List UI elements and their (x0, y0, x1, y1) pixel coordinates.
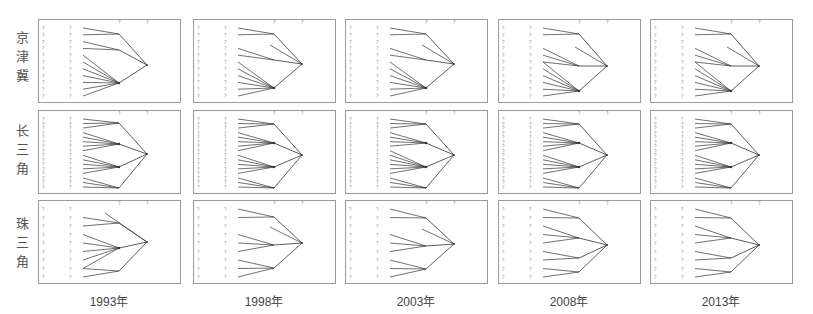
svg-text:?: ? (654, 184, 657, 190)
svg-text:?: ? (578, 110, 581, 116)
svg-text:?: ? (349, 249, 352, 255)
svg-text:?: ? (453, 200, 456, 206)
svg-text:?: ? (349, 25, 352, 31)
svg-text:?: ? (502, 223, 505, 229)
svg-text:?: ? (197, 257, 200, 263)
svg-text:?: ? (42, 223, 45, 229)
svg-text:?: ? (376, 86, 379, 92)
svg-text:?: ? (69, 274, 72, 280)
svg-text:?: ? (197, 79, 200, 85)
svg-text:?: ? (224, 25, 227, 31)
dendrogram-svg: ?????????????????????????????????? (39, 111, 182, 195)
svg-text:?: ? (502, 59, 505, 65)
svg-text:?: ? (376, 25, 379, 31)
svg-text:?: ? (349, 93, 352, 99)
svg-text:?: ? (349, 206, 352, 212)
svg-text:?: ? (197, 45, 200, 51)
svg-text:?: ? (42, 232, 45, 238)
svg-text:?: ? (42, 249, 45, 255)
svg-text:?: ? (654, 215, 657, 221)
svg-text:?: ? (376, 249, 379, 255)
svg-text:?: ? (197, 25, 200, 31)
svg-text:?: ? (42, 86, 45, 92)
dendrogram-svg: ???????????????????????? (346, 20, 489, 104)
svg-text:?: ? (502, 73, 505, 79)
svg-text:?: ? (529, 206, 532, 212)
row-label-char: 珠 (14, 214, 30, 233)
svg-text:?: ? (197, 59, 200, 65)
svg-text:?: ? (529, 32, 532, 38)
svg-text:?: ? (42, 257, 45, 263)
dendrogram-panel: ???????????????????? (193, 200, 336, 284)
svg-text:?: ? (681, 45, 684, 51)
svg-text:?: ? (529, 93, 532, 99)
dendrogram-svg: ???????????????????? (39, 201, 182, 285)
svg-text:?: ? (146, 200, 149, 206)
svg-text:?: ? (654, 93, 657, 99)
svg-text:?: ? (529, 215, 532, 221)
svg-text:?: ? (197, 266, 200, 272)
svg-text:?: ? (578, 200, 581, 206)
svg-text:?: ? (681, 240, 684, 246)
svg-text:?: ? (42, 73, 45, 79)
svg-text:?: ? (42, 215, 45, 221)
svg-text:?: ? (197, 184, 200, 190)
svg-text:?: ? (349, 274, 352, 280)
dendrogram-panel: ???????????????????? (498, 200, 641, 284)
svg-text:?: ? (376, 32, 379, 38)
row-label-char: 津 (14, 47, 30, 66)
svg-text:?: ? (502, 274, 505, 280)
svg-text:?: ? (529, 86, 532, 92)
svg-text:?: ? (69, 79, 72, 85)
svg-text:?: ? (529, 59, 532, 65)
svg-text:?: ? (349, 223, 352, 229)
svg-text:?: ? (681, 79, 684, 85)
row-label-char: 三 (14, 140, 30, 159)
svg-text:?: ? (681, 274, 684, 280)
svg-text:?: ? (224, 93, 227, 99)
svg-text:?: ? (118, 19, 121, 25)
svg-text:?: ? (301, 200, 304, 206)
svg-text:?: ? (502, 86, 505, 92)
row-label-char: 长 (14, 121, 30, 140)
svg-text:?: ? (529, 266, 532, 272)
svg-text:?: ? (42, 39, 45, 45)
svg-text:?: ? (529, 25, 532, 31)
svg-text:?: ? (502, 45, 505, 51)
dendrogram-svg: ???????????????????????? (651, 20, 794, 104)
column-label-1993: 1993年 (38, 292, 180, 309)
svg-text:?: ? (224, 45, 227, 51)
svg-text:?: ? (606, 110, 609, 116)
svg-text:?: ? (502, 215, 505, 221)
dendrogram-svg: ???????????????????????? (499, 20, 642, 104)
svg-text:?: ? (730, 19, 733, 25)
dendrogram-panel: ???????????????????????? (193, 19, 336, 103)
svg-text:?: ? (681, 66, 684, 72)
svg-text:?: ? (681, 32, 684, 38)
svg-text:?: ? (224, 52, 227, 58)
svg-text:?: ? (681, 39, 684, 45)
svg-text:?: ? (681, 25, 684, 31)
svg-text:?: ? (453, 110, 456, 116)
svg-text:?: ? (529, 79, 532, 85)
svg-text:?: ? (376, 206, 379, 212)
svg-text:?: ? (376, 79, 379, 85)
svg-text:?: ? (42, 79, 45, 85)
svg-text:?: ? (224, 257, 227, 263)
svg-text:?: ? (349, 215, 352, 221)
svg-text:?: ? (681, 184, 684, 190)
svg-text:?: ? (502, 66, 505, 72)
svg-text:?: ? (654, 223, 657, 229)
dendrogram-panel: ???????????????????? (38, 200, 181, 284)
svg-text:?: ? (654, 25, 657, 31)
svg-text:?: ? (197, 32, 200, 38)
svg-text:?: ? (529, 66, 532, 72)
svg-text:?: ? (529, 232, 532, 238)
svg-text:?: ? (681, 223, 684, 229)
svg-text:?: ? (69, 93, 72, 99)
svg-text:?: ? (502, 249, 505, 255)
svg-text:?: ? (654, 73, 657, 79)
svg-text:?: ? (42, 25, 45, 31)
svg-text:?: ? (42, 66, 45, 72)
svg-text:?: ? (197, 66, 200, 72)
